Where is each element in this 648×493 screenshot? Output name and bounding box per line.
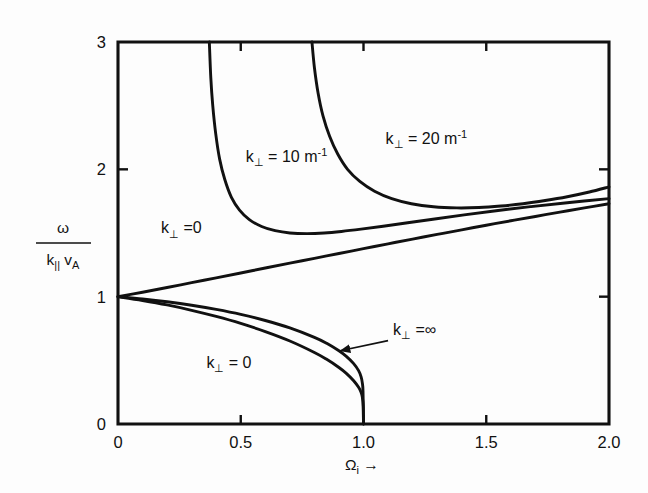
annotation-kperp-zero-lower: k⊥ = 0 (206, 354, 251, 375)
x-tick-label: 1.0 (352, 433, 375, 451)
y-tick-label: 0 (97, 415, 106, 433)
annotation-leader-arrow (340, 341, 388, 351)
annotation-kperp-infinity: k⊥ =∞ (393, 321, 436, 342)
x-axis-title: Ωi → (345, 456, 379, 476)
y-tick-label: 3 (97, 33, 106, 51)
y-axis-denominator: k|| vA (47, 251, 81, 271)
y-axis-title: ω k|| vA (36, 219, 91, 271)
x-axis-title-text: Ωi → (345, 456, 379, 476)
curve-series-4 (312, 42, 609, 208)
annotation-k10-label: k⊥ = 10 m-1 (246, 146, 328, 169)
x-tick-label: 1.5 (475, 433, 498, 451)
x-tick-label: 0 (113, 433, 122, 451)
figure-root: 00.51.01.52.0 0123 k⊥ = 10 m-1k⊥ = 20 m-… (0, 0, 648, 493)
y-tick-label: 1 (97, 288, 106, 306)
y-tick-label: 2 (97, 160, 106, 178)
annotation-k20-label: k⊥ = 20 m-1 (386, 128, 468, 151)
y-axis-numerator: ω (57, 219, 69, 236)
x-tick-labels: 00.51.01.52.0 (113, 433, 620, 451)
annotation-kperp-zero-upper: k⊥ =0 (161, 219, 202, 240)
x-tick-label: 2.0 (598, 433, 621, 451)
curve-series-0 (118, 204, 609, 297)
leader-line (340, 341, 388, 351)
y-tick-labels: 0123 (97, 33, 106, 433)
dispersion-plot: 00.51.01.52.0 0123 k⊥ = 10 m-1k⊥ = 20 m-… (0, 0, 648, 493)
x-tick-label: 0.5 (229, 433, 252, 451)
